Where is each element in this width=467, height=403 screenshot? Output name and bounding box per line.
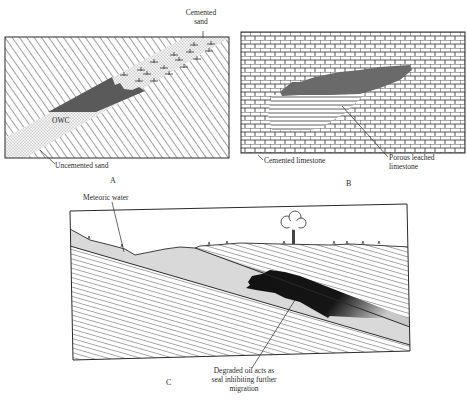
label-line: migration — [196, 384, 292, 393]
panel-letter-c: C — [166, 378, 171, 387]
label-meteoric-water: Meteoric water — [83, 193, 129, 202]
panel-b-diagram — [241, 32, 465, 153]
label-owc: OWC — [52, 116, 70, 125]
label-line: Degraded oil acts as — [196, 366, 292, 375]
label-line: limestone — [389, 162, 435, 171]
label-uncemented-sand: Uncemented sand — [55, 161, 109, 170]
panel-c-diagram — [70, 204, 410, 364]
label-line: sand — [180, 17, 222, 26]
label-line: seal inhibiting further — [196, 375, 292, 384]
panel-a-diagram — [5, 37, 229, 158]
label-degraded-oil: Degraded oil acts as seal inhibiting fur… — [196, 366, 292, 393]
figure-canvas — [0, 0, 467, 403]
label-porous-leached-limestone: Porous leached limestone — [389, 153, 435, 171]
panel-letter-b: B — [346, 179, 351, 188]
panel-letter-a: A — [110, 176, 116, 185]
label-line: Porous leached — [389, 153, 435, 162]
label-line: Cemented — [180, 8, 222, 17]
label-cemented-sand: Cemented sand — [180, 8, 222, 26]
label-cemented-limestone: Cemented limestone — [264, 156, 325, 165]
